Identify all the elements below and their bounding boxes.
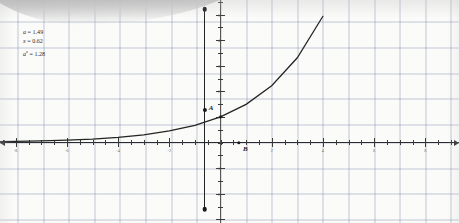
graph-paper-canvas: -8-6-4-22468 -2-112345 A B a = 1.49x = 0… bbox=[0, 0, 459, 223]
curve-y-intercept-marker bbox=[219, 115, 223, 119]
point-b-label: B bbox=[243, 145, 248, 153]
value-readout-panel: a = 1.49x = 0.62ax = 1.28 bbox=[23, 28, 45, 59]
exponent-value: x = 0.62 bbox=[23, 37, 45, 46]
exponential-curve bbox=[0, 0, 459, 223]
exponent-value-number: 0.62 bbox=[32, 38, 43, 44]
base-value-number: 1.49 bbox=[33, 29, 44, 35]
point-a-label: A bbox=[209, 104, 214, 112]
result-value-number: 1.28 bbox=[34, 51, 45, 57]
segment-endpoint-top[interactable] bbox=[202, 7, 207, 12]
result-value: ax = 1.28 bbox=[23, 47, 45, 59]
base-value: a = 1.49 bbox=[23, 28, 45, 37]
segment-endpoint-bottom[interactable] bbox=[202, 207, 207, 212]
